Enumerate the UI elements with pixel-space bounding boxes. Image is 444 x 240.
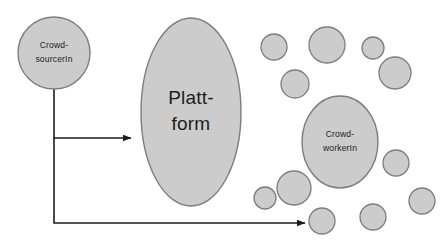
crowdsourcer-node-label-line-1: sourcerIn — [35, 54, 72, 64]
crowd-circle-8 — [277, 171, 311, 205]
crowdsourcing-diagram: Crowd-sourcerInPlatt-formCrowd-workerIn — [0, 0, 444, 240]
crowdworker-node-shape — [302, 96, 378, 188]
crowd-circle-1 — [309, 27, 345, 63]
plattform-node-shape — [141, 18, 241, 206]
plattform-node: Platt-form — [141, 18, 241, 206]
arrow-crowdsourcer-to-plattform — [54, 89, 131, 138]
diagram-canvas: Crowd-sourcerInPlatt-formCrowd-workerIn — [0, 0, 444, 240]
crowdsourcer-node-label-line-0: Crowd- — [40, 40, 69, 50]
plattform-node-label-line-1: form — [172, 113, 211, 134]
crowd-circle-0 — [261, 34, 287, 60]
crowdworker-node-label-line-1: workerIn — [322, 143, 357, 153]
crowd-circle-9 — [254, 187, 276, 209]
crowd-circle-6 — [409, 188, 435, 214]
crowdsourcer-node: Crowd-sourcerIn — [18, 17, 90, 89]
crowd-circle-7 — [360, 204, 386, 230]
crowd-circle-5 — [383, 150, 409, 176]
crowd-circle-2 — [362, 37, 384, 59]
crowdsourcer-node-shape — [18, 17, 90, 89]
crowdworker-node: Crowd-workerIn — [302, 96, 378, 188]
crowd-circle-10 — [309, 208, 335, 234]
crowdworker-node-label-line-0: Crowd- — [326, 129, 355, 139]
crowd-circle-3 — [379, 57, 411, 89]
crowd-circle-4 — [281, 70, 309, 98]
plattform-node-label-line-0: Platt- — [168, 87, 214, 108]
